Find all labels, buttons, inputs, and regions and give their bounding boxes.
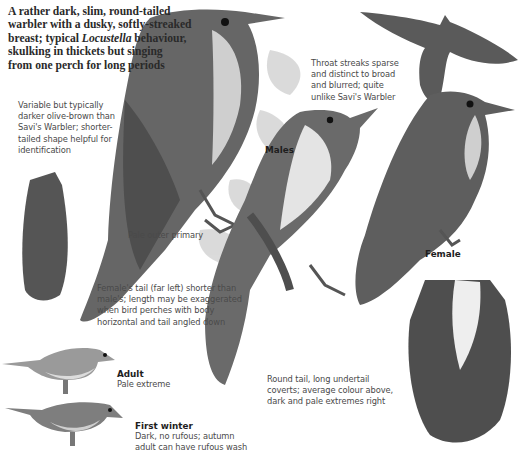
first-winter-desc: Dark, no rufous; autumn xyxy=(135,431,247,442)
first-winter-caption: First winter Dark, no rufous; autumn adu… xyxy=(135,421,247,452)
note-line: coverts; average colour above, xyxy=(267,385,407,396)
female-warbler-illustration xyxy=(355,91,515,305)
males-label: Males xyxy=(265,145,294,155)
note-line: darker olive-brown than xyxy=(18,111,148,122)
first-winter-illustration xyxy=(5,402,123,446)
adult-desc: Pale extreme xyxy=(117,379,170,390)
adult-title: Adult xyxy=(117,369,170,379)
intro-line: from one perch for long periods xyxy=(8,59,198,72)
first-winter-desc: adult can have rufous wash xyxy=(135,442,247,452)
female-tail-illustration xyxy=(22,172,67,300)
note-line: identification xyxy=(18,145,148,156)
undertail-spread-illustration xyxy=(408,280,511,443)
intro-line: breast; typical Locustella behaviour, xyxy=(8,32,198,45)
note-line: and distinct to broad xyxy=(311,69,431,80)
note-line: horizontal and tail angled down xyxy=(97,317,247,328)
adult-caption: Adult Pale extreme xyxy=(117,369,170,390)
tail-note: Female's tail (far left) shorter than ma… xyxy=(97,283,247,328)
genus-name: Locustella xyxy=(82,32,132,45)
note-line: Throat streaks sparse xyxy=(311,58,431,69)
intro-line: A rather dark, slim, round-tailed xyxy=(8,5,198,18)
throat-note: Throat streaks sparse and distinct to br… xyxy=(311,58,431,103)
note-line: when bird perches with body xyxy=(97,305,247,316)
primary-note: Pale outer primary xyxy=(128,230,203,241)
note-line: Savi's Warbler; shorter- xyxy=(18,122,148,133)
undertail-note: Round tail, long undertail coverts; aver… xyxy=(267,374,407,408)
first-winter-title: First winter xyxy=(135,421,247,431)
intro-text: behaviour, xyxy=(131,32,186,45)
note-line: unlike Savi's Warbler xyxy=(311,92,431,103)
plumage-note: Variable but typically darker olive-brow… xyxy=(18,100,148,156)
note-line: Female's tail (far left) shorter than xyxy=(97,283,247,294)
female-label: Female xyxy=(425,249,461,259)
intro-text: breast; typical xyxy=(8,32,82,45)
adult-pale-illustration xyxy=(2,348,115,394)
note-line: and blurred; quite xyxy=(311,80,431,91)
note-line: tailed shape helpful for xyxy=(18,134,148,145)
note-line: male's; length may be exaggerated xyxy=(97,294,247,305)
note-line: Round tail, long undertail xyxy=(267,374,407,385)
intro-paragraph: A rather dark, slim, round-tailed warble… xyxy=(8,5,198,72)
note-line: dark and pale extremes right xyxy=(267,396,407,407)
intro-line: skulking in thickets but singing xyxy=(8,45,198,58)
note-line: Variable but typically xyxy=(18,100,148,111)
intro-line: warbler with a dusky, softly-streaked xyxy=(8,18,198,31)
